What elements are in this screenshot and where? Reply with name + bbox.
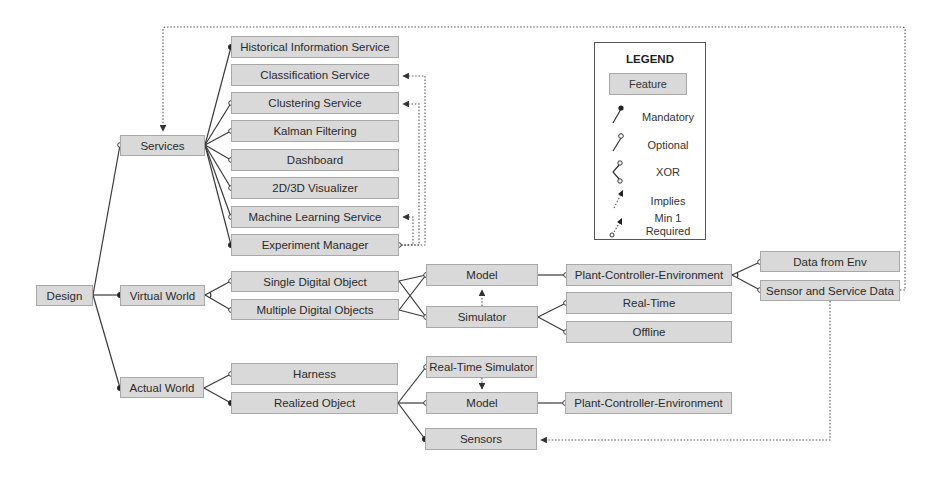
legend-item-mandatory: Mandatory xyxy=(595,103,705,127)
legend-item-optional: Optional xyxy=(595,131,705,155)
implies-icon xyxy=(607,187,629,213)
legend-label-min-1: Min 1 xyxy=(635,212,701,225)
feature-single-digital-object: Single Digital Object xyxy=(231,271,399,292)
legend-feature-swatch: Feature xyxy=(609,73,687,95)
feature-experiment-manager: Experiment Manager xyxy=(231,234,399,256)
legend-label-implies: Implies xyxy=(635,195,701,208)
xor-icon xyxy=(607,159,629,185)
legend-item-min-1-required: Min 1 Required xyxy=(595,211,705,239)
feature-services: Services xyxy=(120,135,205,156)
min-1-required-icon xyxy=(607,213,629,239)
feature-real-time: Real-Time xyxy=(566,292,732,314)
legend-label-optional: Optional xyxy=(635,139,701,152)
legend-title: LEGEND xyxy=(595,53,705,65)
feature-2d3d-visualizer: 2D/3D Visualizer xyxy=(231,177,399,199)
feature-kalman-filtering: Kalman Filtering xyxy=(231,120,399,142)
feature-sensors: Sensors xyxy=(425,428,537,450)
legend-label-mandatory: Mandatory xyxy=(635,111,701,124)
feature-aw-plant-controller-environment: Plant-Controller-Environment xyxy=(565,392,732,414)
feature-virtual-world: Virtual World xyxy=(120,285,205,306)
feature-data-from-env: Data from Env xyxy=(760,251,900,272)
feature-actual-world: Actual World xyxy=(120,377,204,398)
feature-sensor-and-service-data: Sensor and Service Data xyxy=(760,280,900,301)
feature-realized-object: Realized Object xyxy=(231,392,398,414)
legend: LEGEND Feature Mandatory Optional XOR xyxy=(594,42,706,240)
feature-model-diagram: Design Services Virtual World Actual Wor… xyxy=(0,0,944,479)
legend-label-xor: XOR xyxy=(635,166,701,179)
feature-design: Design xyxy=(36,285,93,306)
feature-vw-plant-controller-environment: Plant-Controller-Environment xyxy=(566,264,732,286)
mandatory-icon xyxy=(607,103,629,129)
feature-machine-learning-service: Machine Learning Service xyxy=(231,206,399,228)
feature-real-time-simulator: Real-Time Simulator xyxy=(426,356,537,378)
feature-vw-model: Model xyxy=(426,264,538,286)
feature-historical-information-service: Historical Information Service xyxy=(231,36,399,58)
feature-aw-model: Model xyxy=(426,392,538,414)
optional-icon xyxy=(607,131,629,157)
feature-dashboard: Dashboard xyxy=(231,149,399,171)
feature-multiple-digital-objects: Multiple Digital Objects xyxy=(231,299,399,320)
legend-item-xor: XOR xyxy=(595,159,705,183)
feature-clustering-service: Clustering Service xyxy=(231,92,399,114)
feature-harness: Harness xyxy=(231,363,398,385)
feature-classification-service: Classification Service xyxy=(231,64,399,86)
feature-offline: Offline xyxy=(566,321,732,343)
legend-label-required: Required xyxy=(635,225,701,238)
legend-item-implies: Implies xyxy=(595,187,705,211)
feature-vw-simulator: Simulator xyxy=(426,306,538,328)
